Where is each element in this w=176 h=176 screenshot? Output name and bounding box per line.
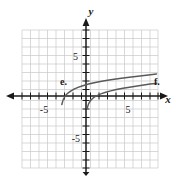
graph-figure: y x -5 5 5 -5 e. f. — [0, 0, 176, 176]
curve-e-label: e. — [60, 76, 67, 87]
curve-f-label: f. — [154, 76, 160, 87]
x-tick-label-pos-five: 5 — [126, 104, 131, 115]
x-tick-label-neg-five: -5 — [40, 104, 48, 115]
y-tick-label-neg-five: -5 — [72, 133, 80, 144]
y-axis-label: y — [87, 5, 94, 17]
y-axis-arrow-down — [83, 172, 90, 176]
coordinate-plane-svg: y x -5 5 5 -5 e. f. — [0, 0, 176, 176]
axes — [14, 26, 160, 172]
y-tick-label-pos-five: 5 — [73, 51, 78, 62]
plotted-curves — [62, 74, 157, 108]
x-axis-arrow-left — [6, 93, 14, 100]
x-axis-label: x — [164, 93, 171, 105]
y-axis-arrow-up — [83, 18, 90, 26]
